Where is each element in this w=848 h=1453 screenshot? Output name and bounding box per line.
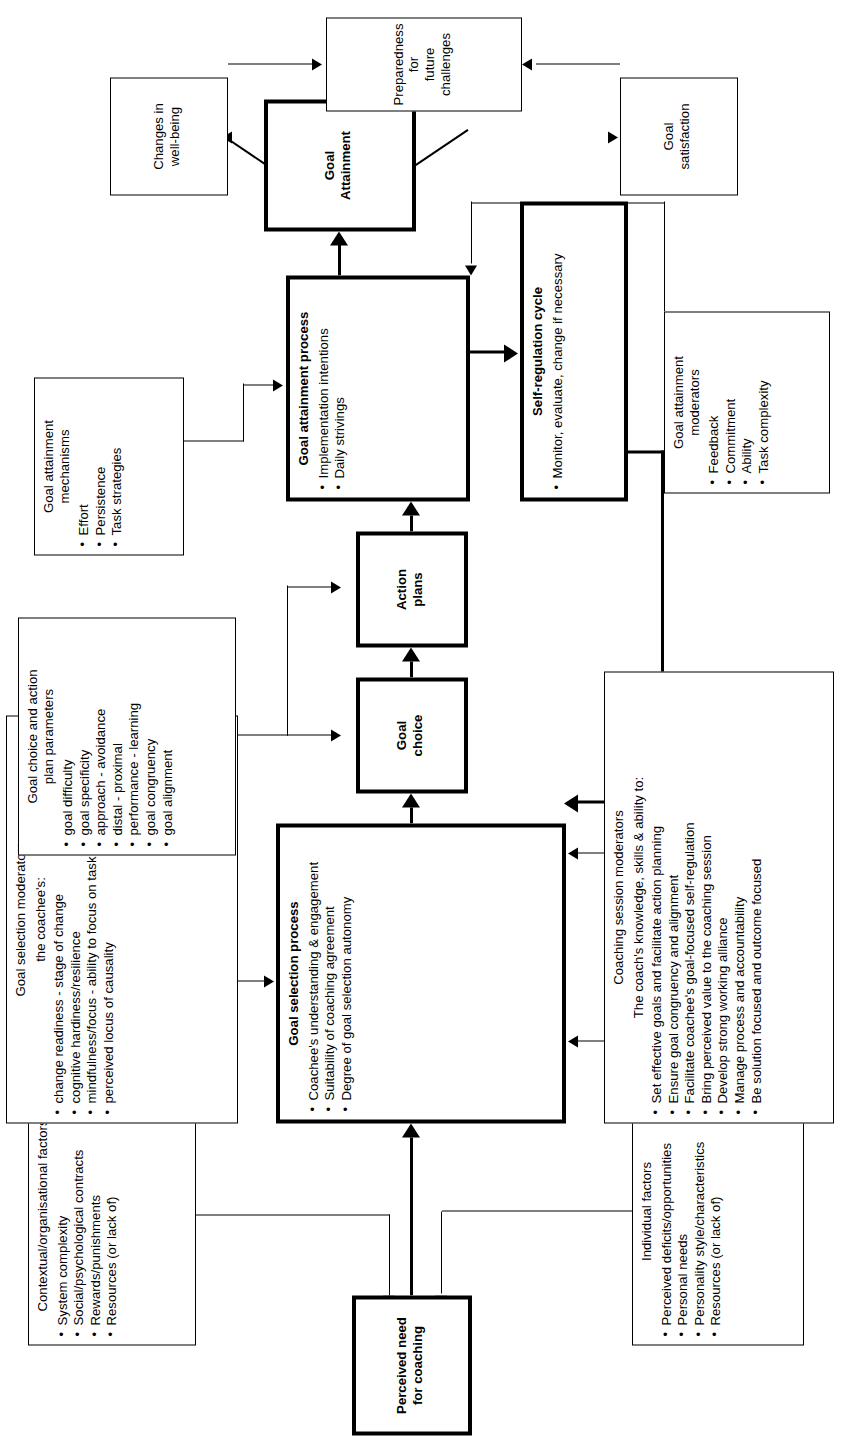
connector-attainment-moderators-horiz — [664, 201, 665, 311]
node-contextual-factors[interactable]: Contextual/organisational factors System… — [28, 1085, 196, 1345]
connector-parameters-to-plans — [287, 586, 331, 587]
connector-parameters-vert — [236, 734, 288, 735]
list-item: Resources (or lack of) — [104, 1094, 120, 1336]
arrowhead-selection-moderators — [264, 975, 274, 987]
arrowhead-session-moderators-to-selection — [568, 1035, 578, 1047]
connector-attainment-moderators-into — [471, 201, 472, 263]
list-item: Monitor, evaluate, change if necessary — [550, 213, 566, 489]
list-item: Feedback — [706, 320, 722, 484]
arrowhead-session-moderators-to-selfreg — [568, 847, 578, 859]
list-item: Ensure goal congruency and alignment — [666, 680, 682, 1114]
node-goal-attainment[interactable]: Goal Attainment — [264, 99, 416, 231]
list-item: Facilitate coachee's goal-focused self-r… — [682, 680, 698, 1114]
list-item: Coachee's understanding & engagement — [306, 835, 322, 1111]
arrowhead-parameters-to-plans — [331, 581, 341, 593]
connector-process-to-selfreg — [470, 350, 504, 353]
node-goal-selection-process[interactable]: Goal selection process Coachee's underst… — [276, 823, 566, 1123]
list-item: Commitment — [723, 320, 739, 484]
list-item: approach - avoidance — [93, 626, 109, 846]
node-goal-attainment-process[interactable]: Goal attainment process Implementation i… — [286, 275, 470, 501]
node-goal-choice[interactable]: Goal choice — [356, 677, 468, 793]
node-action-plans[interactable]: Action plans — [356, 531, 468, 647]
connector-plans-to-attainment-process — [410, 515, 413, 531]
arrowhead-selfreg-to-selection — [564, 794, 578, 812]
node-preparedness[interactable]: Preparedness for future challenges — [326, 17, 522, 111]
node-individual-factors-title: Individual factors — [639, 1086, 655, 1336]
node-action-plans-label: Action plans — [394, 568, 425, 609]
arrowhead-attainment-moderators-to-process — [465, 265, 477, 275]
node-goal-attainment-moderators[interactable]: Goal attainment moderators Feedback Comm… — [664, 311, 830, 493]
connector-process-to-attainment — [338, 243, 341, 275]
list-item: Manage process and accountability — [732, 680, 748, 1114]
connector-choice-to-plans — [410, 661, 413, 677]
connector-parameters-horiz — [287, 585, 288, 735]
arrowhead-wellbeing-to-preparedness — [312, 58, 322, 70]
list-item: Personal needs — [675, 1086, 691, 1336]
node-goal-attainment-process-bullets: Implementation intentions Daily striving… — [316, 287, 348, 489]
list-item: goal specificity — [77, 626, 93, 846]
node-goal-attainment-mechanisms-title: Goal attainment mechanisms — [41, 386, 72, 546]
connector-session-moderators-to-selfreg-vert — [578, 852, 604, 853]
node-perceived-need[interactable]: Perceived need for coaching — [352, 1295, 472, 1435]
node-individual-factors-bullets: Perceived deficits/opportunities Persona… — [659, 1086, 724, 1336]
list-item: Task complexity — [756, 320, 772, 484]
arrowhead-choice-to-plans — [402, 647, 420, 661]
connector-mechanisms-horiz — [243, 383, 244, 441]
connector-mechanisms-down — [243, 384, 273, 385]
list-item: Persistence — [93, 386, 109, 546]
diagram-canvas: Perceived need for coaching Contextual/o… — [0, 0, 848, 1453]
node-self-regulation-cycle-bullets: Monitor, evaluate, change if necessary — [550, 213, 566, 489]
node-changes-wellbeing-label: Changes in well-being — [151, 103, 182, 170]
list-item: Task strategies — [109, 386, 125, 546]
list-item: Set effective goals and facilitate actio… — [649, 680, 665, 1114]
list-item: distal - proximal — [110, 626, 126, 846]
connector-need-to-selection — [410, 1137, 413, 1295]
connector-session-moderators-to-selection — [578, 1040, 604, 1041]
node-preparedness-label: Preparedness for future challenges — [391, 23, 453, 105]
node-goal-satisfaction-label: Goal satisfaction — [661, 103, 692, 169]
connector-contextual-to-need-vert — [196, 1214, 390, 1215]
node-goal-attainment-label: Goal Attainment — [322, 131, 353, 200]
node-coaching-session-moderators-title: Coaching session moderators — [611, 680, 627, 1114]
node-goal-attainment-moderators-title: Goal attainment moderators — [671, 320, 702, 484]
node-goal-attainment-mechanisms-bullets: Effort Persistence Task strategies — [76, 386, 125, 546]
node-goal-choice-parameters[interactable]: Goal choice and action plan parameters g… — [18, 617, 236, 855]
arrowhead-process-to-selfreg — [504, 344, 518, 362]
list-item: Bring perceived value to the coaching se… — [699, 680, 715, 1114]
node-goal-attainment-mechanisms[interactable]: Goal attainment mechanisms Effort Persis… — [34, 377, 184, 555]
node-coaching-session-moderators-bullets: Set effective goals and facilitate actio… — [649, 680, 764, 1114]
connector-selection-moderators-vert — [238, 980, 264, 981]
list-item: goal difficulty — [60, 626, 76, 846]
connector-satisfaction-up — [536, 63, 620, 64]
connector-wellbeing-down — [228, 63, 312, 64]
list-item: Effort — [76, 386, 92, 546]
list-item: goal alignment — [160, 626, 176, 846]
list-item: Daily strivings — [332, 287, 348, 489]
node-contextual-factors-bullets: System complexity Social/psychological c… — [55, 1094, 120, 1336]
node-coaching-session-moderators[interactable]: Coaching session moderators The coach's … — [604, 671, 834, 1123]
list-item: Perceived deficits/opportunities — [659, 1086, 675, 1336]
connector-selfreg-feedback-vert — [628, 450, 664, 453]
node-perceived-need-label: Perceived need for coaching — [394, 1317, 425, 1414]
connector-individual-to-need-vert — [442, 1210, 632, 1211]
arrowhead-need-to-selection — [402, 1123, 420, 1137]
node-changes-wellbeing[interactable]: Changes in well-being — [110, 77, 228, 195]
list-item: Social/psychological contracts — [71, 1094, 87, 1336]
connector-attainment-to-satisfaction — [414, 129, 468, 166]
arrowhead-process-to-attainment — [330, 231, 348, 245]
arrowhead-parameters-to-choice — [331, 729, 341, 741]
list-item: Rewards/punishments — [88, 1094, 104, 1336]
list-item: System complexity — [55, 1094, 71, 1336]
connector-mechanisms-vert — [184, 440, 244, 441]
node-goal-satisfaction[interactable]: Goal satisfaction — [620, 77, 738, 195]
list-item: Resources (or lack of) — [708, 1086, 724, 1336]
node-self-regulation-cycle[interactable]: Self-regulation cycle Monitor, evaluate,… — [520, 201, 628, 501]
list-item: Be solution focused and outcome focused — [749, 680, 765, 1114]
list-item: goal congruency — [143, 626, 159, 846]
node-goal-choice-parameters-bullets: goal difficulty goal specificity approac… — [60, 626, 175, 846]
list-item: Personality style/characteristics — [692, 1086, 708, 1336]
list-item: Develop strong working alliance — [715, 680, 731, 1114]
node-goal-attainment-moderators-bullets: Feedback Commitment Ability Task complex… — [706, 320, 771, 484]
connector-selection-to-choice — [410, 807, 413, 823]
arrowhead-attainment-to-satisfaction — [608, 131, 618, 143]
